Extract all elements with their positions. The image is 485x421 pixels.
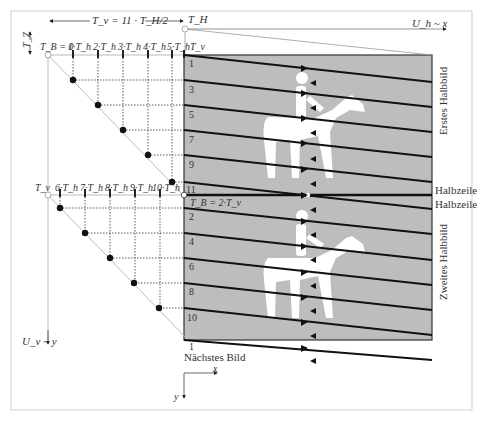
diagonal-second [48,195,190,342]
th-label: T_H [188,14,208,25]
line-number: 5 [189,110,194,120]
tick-label: 3·T_h [118,42,141,52]
legend-y-label: y [174,392,178,402]
tick-label: 2·T_h [93,42,116,52]
tick-label: 6·T_h [55,183,78,193]
tick-label: 5·T_h [167,42,190,52]
tz-label: T_Z [22,32,32,48]
line-number: 6 [189,262,194,272]
line-number: 1 [189,59,194,69]
line-number: 7 [189,135,194,145]
origin-label-second: T_v [35,183,50,193]
line-number: 9 [189,160,194,170]
th-marker [182,26,188,32]
x-axis-label: U_h ~ x [412,18,447,29]
next-frame-label: Nächstes Bild [184,352,245,363]
tb-label: T_B = 2·T_v [190,198,241,208]
origin-marker-first [45,52,51,58]
line-number: 2 [189,212,194,222]
diagonal-first [48,55,184,196]
halfline-label-2: Halbzeile [435,199,477,210]
second-field-label: Zweites Halbbild [438,224,449,300]
tick-label: 9·T_h [130,183,153,193]
y-axis-label: U_v ~ y [22,336,57,347]
tick-label: 7·T_h [80,183,103,193]
line-number: 11 [186,185,196,195]
halfline-label-1: Halbzeile [435,185,477,196]
sample-dots-first [70,77,175,185]
line-number: 10 [187,313,197,323]
tv-label: T_v [190,42,205,52]
line-number: 4 [189,237,194,247]
tick-label: 4·T_h [143,42,166,52]
frame-period-label: T_v = 11 · T_H/2 [92,15,168,26]
tick-label: 1·T_h [68,42,91,52]
tick-label: 10·T_h [152,183,180,193]
first-field-label: Erstes Halbbild [438,67,449,135]
perspective-line [185,29,432,55]
tick-label: 8·T_h [105,183,128,193]
line-number: 3 [189,85,194,95]
legend-x-label: x [213,364,217,374]
line-number: 8 [189,287,194,297]
